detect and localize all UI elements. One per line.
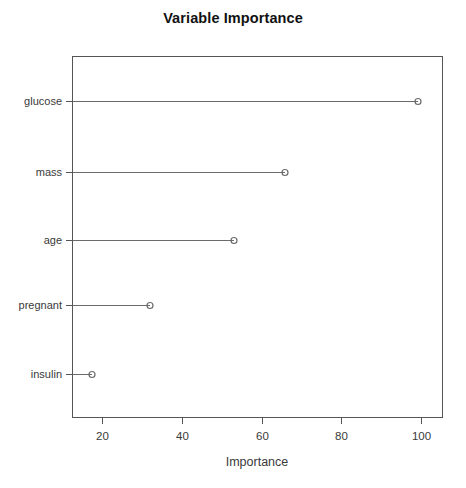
x-axis-ticks xyxy=(103,418,422,425)
x-tick-label-100: 100 xyxy=(412,430,431,442)
series-importance xyxy=(73,99,422,378)
x-axis-title: Importance xyxy=(226,455,289,469)
x-tick-label-60: 60 xyxy=(256,430,269,442)
y-axis-ticks xyxy=(66,102,73,375)
y-axis-label-age: age xyxy=(44,234,62,246)
datapoint-pregnant[interactable] xyxy=(73,303,154,309)
datapoint-mass[interactable] xyxy=(73,170,289,176)
datapoint-age[interactable] xyxy=(73,238,238,244)
y-axis-label-insulin: insulin xyxy=(31,368,62,380)
y-axis-label-pregnant: pregnant xyxy=(19,299,62,311)
x-tick-label-80: 80 xyxy=(335,430,348,442)
plot-area: glucose mass age pregnant insulin 20 40 … xyxy=(0,0,466,488)
x-axis-tick-labels: 20 40 60 80 100 xyxy=(96,430,431,442)
datapoint-insulin[interactable] xyxy=(73,372,96,378)
plot-frame xyxy=(73,57,443,418)
variable-importance-chart: Variable Importance xyxy=(0,0,466,488)
y-axis-label-glucose: glucose xyxy=(24,95,62,107)
y-axis-label-mass: mass xyxy=(36,166,63,178)
x-tick-label-40: 40 xyxy=(176,430,189,442)
y-axis-labels: glucose mass age pregnant insulin xyxy=(19,95,63,380)
x-tick-label-20: 20 xyxy=(96,430,109,442)
datapoint-glucose[interactable] xyxy=(73,99,422,105)
